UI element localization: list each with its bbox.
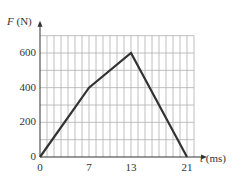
x-tick-21: 21 (177, 162, 197, 173)
y-tick-600: 600 (6, 47, 36, 58)
y-axis-unit: (N) (16, 15, 31, 27)
axes (38, 21, 208, 160)
x-axis-var: t (200, 152, 203, 164)
x-tick-13: 13 (121, 162, 141, 173)
y-tick-400: 400 (6, 82, 36, 93)
grid-lines (40, 36, 194, 157)
y-axis-label: F (N) (7, 16, 32, 27)
x-tick-0: 0 (30, 162, 50, 173)
y-tick-0: 0 (6, 151, 36, 162)
y-axis-var: F (7, 15, 14, 27)
x-tick-7: 7 (79, 162, 99, 173)
x-axis-label: t (ms) (200, 153, 226, 164)
y-tick-200: 200 (6, 116, 36, 127)
x-axis-unit: (ms) (206, 152, 226, 164)
